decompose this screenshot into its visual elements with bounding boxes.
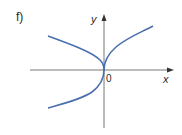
origin-label: 0: [106, 73, 112, 84]
x-axis-arrow-icon: [167, 68, 174, 73]
x-axis-label: x: [163, 74, 169, 85]
curve-upper-right: [104, 26, 153, 70]
curve-lower-left: [48, 70, 104, 108]
y-axis-arrow-icon: [102, 14, 107, 21]
curve-upper-left: [48, 36, 104, 70]
y-axis-label: y: [91, 14, 97, 25]
